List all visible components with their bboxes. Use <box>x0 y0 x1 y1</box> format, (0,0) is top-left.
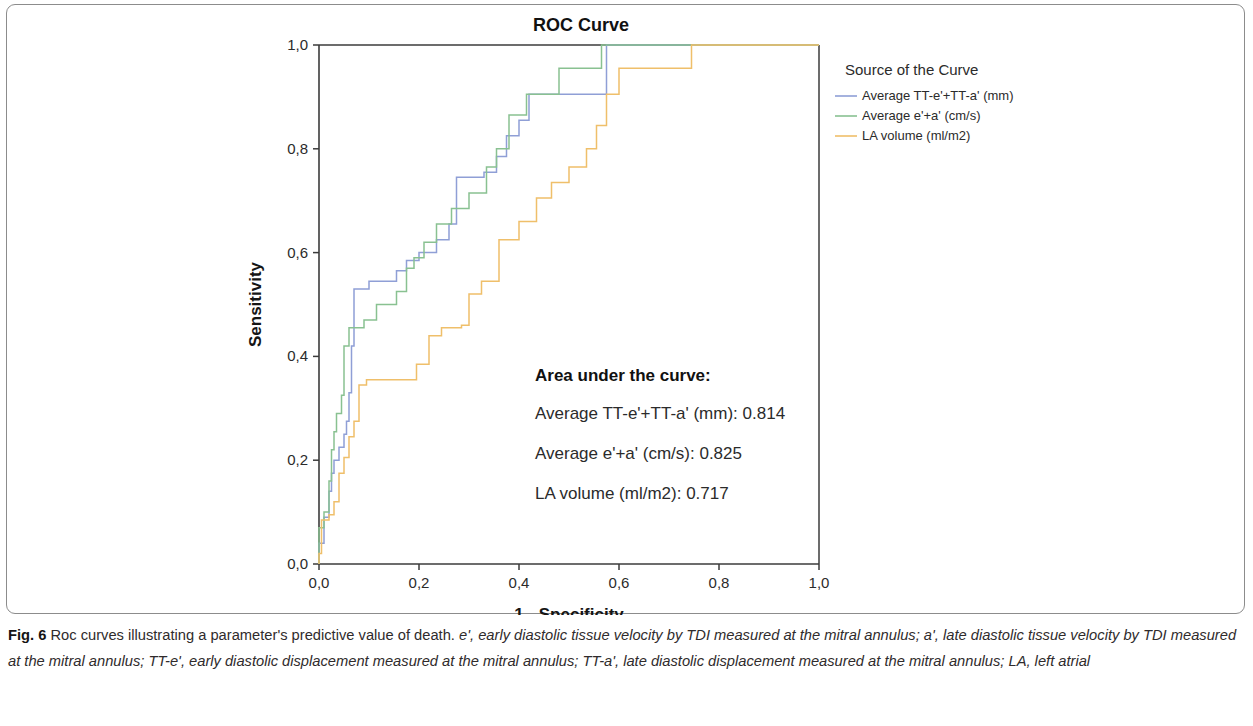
x-axis-title: 1 - Specificity <box>514 605 624 615</box>
y-tick-label: 0,0 <box>287 555 308 572</box>
roc-chart: ROC Curve0,00,20,40,60,81,00,00,20,40,60… <box>7 5 1246 615</box>
y-tick-label: 0,6 <box>287 244 308 261</box>
y-tick-label: 0,2 <box>287 451 308 468</box>
auc-heading: Area under the curve: <box>535 366 711 385</box>
x-tick-label: 0,6 <box>609 574 630 591</box>
y-tick-label: 1,0 <box>287 36 308 53</box>
legend-title: Source of the Curve <box>845 61 978 78</box>
x-tick-label: 0,8 <box>709 574 730 591</box>
auc-row-3: LA volume (ml/m2): 0.717 <box>535 484 729 503</box>
figure-panel: ROC Curve0,00,20,40,60,81,00,00,20,40,60… <box>6 4 1245 614</box>
y-tick-label: 0,8 <box>287 140 308 157</box>
x-tick-label: 0,0 <box>309 574 330 591</box>
auc-row-1: Average TT-e'+TT-a' (mm): 0.814 <box>535 404 785 423</box>
figure-root: ROC Curve0,00,20,40,60,81,00,00,20,40,60… <box>0 0 1253 726</box>
x-tick-label: 1,0 <box>809 574 830 591</box>
auc-row-2: Average e'+a' (cm/s): 0.825 <box>535 444 742 463</box>
legend-label-3: LA volume (ml/m2) <box>862 128 970 143</box>
legend-label-2: Average e'+a' (cm/s) <box>862 108 981 123</box>
figure-caption: Fig. 6 Roc curves illustrating a paramet… <box>8 622 1245 674</box>
x-tick-label: 0,4 <box>509 574 530 591</box>
y-axis-title: Sensitivity <box>246 261 265 347</box>
x-tick-label: 0,2 <box>409 574 430 591</box>
caption-figure-number: Fig. 6 <box>8 627 46 643</box>
y-tick-label: 0,4 <box>287 347 308 364</box>
caption-lead-text: Roc curves illustrating a parameter's pr… <box>50 627 454 643</box>
legend-label-1: Average TT-e'+TT-a' (mm) <box>862 88 1014 103</box>
chart-title: ROC Curve <box>533 15 629 35</box>
